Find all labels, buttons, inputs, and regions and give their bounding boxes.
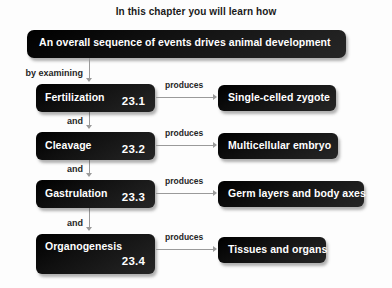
connector-label-and-row3: and	[29, 164, 83, 174]
stage-name-cleavage: Cleavage	[45, 139, 92, 151]
spine-segment-2-3	[89, 160, 90, 174]
produces-arrow-line-row4	[156, 249, 214, 250]
produces-label-row2: produces	[165, 128, 203, 138]
stage-box-cleavage: Cleavage 23.2	[36, 132, 155, 160]
spine-segment-3-4	[89, 208, 90, 228]
stage-name-fertilization: Fertilization	[45, 91, 105, 103]
produces-arrow-line-row1	[156, 97, 214, 98]
produces-label-row3: produces	[165, 176, 203, 186]
stage-section-number-organogenesis: 23.4	[122, 255, 145, 267]
result-box-multicellular-embryo: Multicellular embryo	[218, 133, 338, 159]
connector-label-and-row4: and	[29, 218, 83, 228]
stage-box-gastrulation: Gastrulation 23.3	[36, 180, 155, 208]
produces-label-row4: produces	[165, 232, 203, 242]
arrow-down-icon-row3	[86, 173, 92, 177]
stage-name-gastrulation: Gastrulation	[45, 187, 107, 199]
chapter-title: In this chapter you will learn how	[0, 6, 392, 17]
stage-section-number-gastrulation: 23.3	[122, 191, 145, 203]
produces-arrow-line-row2	[156, 145, 214, 146]
result-box-single-celled-zygote: Single-celled zygote	[218, 85, 336, 111]
connector-label-and-row2: and	[29, 116, 83, 126]
result-label-single-celled-zygote: Single-celled zygote	[228, 91, 330, 103]
arrow-down-icon-row4	[86, 227, 92, 231]
produces-label-row1: produces	[165, 80, 203, 90]
result-label-tissues-and-organs: Tissues and organs	[228, 243, 327, 255]
diagram-canvas: In this chapter you will learn how An ov…	[0, 0, 392, 288]
stage-name-organogenesis: Organogenesis	[45, 240, 122, 252]
result-label-germ-layers-and-body-axes: Germ layers and body axes	[228, 187, 366, 199]
arrow-down-icon-row2	[86, 125, 92, 129]
spine-segment-entry	[89, 58, 90, 80]
header-box-label: An overall sequence of events drives ani…	[39, 36, 331, 48]
connector-label-by-examining: by examining	[9, 68, 83, 78]
arrow-down-icon-entry	[86, 78, 92, 82]
arrow-right-icon-row4	[213, 246, 217, 252]
arrow-right-icon-row3	[213, 190, 217, 196]
arrow-right-icon-row1	[213, 94, 217, 100]
stage-box-organogenesis: Organogenesis 23.4	[36, 234, 155, 274]
stage-section-number-cleavage: 23.2	[122, 143, 145, 155]
result-box-germ-layers-and-body-axes: Germ layers and body axes	[218, 181, 364, 207]
result-label-multicellular-embryo: Multicellular embryo	[228, 139, 331, 151]
result-box-tissues-and-organs: Tissues and organs	[218, 237, 326, 263]
arrow-right-icon-row2	[213, 142, 217, 148]
produces-arrow-line-row3	[156, 193, 214, 194]
spine-segment-1-2	[89, 112, 90, 126]
stage-section-number-fertilization: 23.1	[122, 95, 145, 107]
header-box: An overall sequence of events drives ani…	[27, 30, 346, 58]
stage-box-fertilization: Fertilization 23.1	[36, 84, 155, 112]
